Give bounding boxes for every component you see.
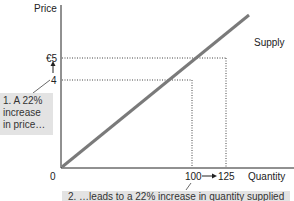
tick-price-low: 4 [51,75,57,86]
callout2-pointer [186,183,191,190]
y-axis-label: Price [34,3,57,14]
tick-qty-low: 100 [185,171,202,182]
callout-price-increase: 1. A 22% increase in price… [0,93,53,135]
qty-arrow-head [212,174,217,179]
callout1-line2: increase [3,107,53,119]
supply-label: Supply [254,37,285,48]
origin-label: 0 [50,171,56,182]
x-axis-label: Quantity [248,171,285,182]
callout1-pointer [33,80,50,93]
callout-quantity-increase: 2. …leads to a 22% increase in quantity … [62,191,290,201]
tick-price-high: €5 [46,53,57,64]
callout1-line3: in price… [3,119,53,131]
supply-curve [62,15,249,167]
tick-qty-high: 125 [218,171,235,182]
callout1-line1: 1. A 22% [3,95,53,107]
